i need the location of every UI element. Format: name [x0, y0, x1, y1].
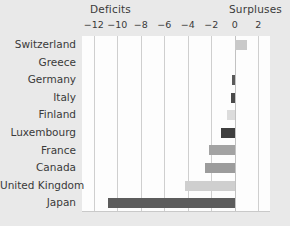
- x-tick-label-0: −12: [84, 19, 104, 30]
- bar-luxembourg: [221, 128, 235, 138]
- x-tick-label-1: −10: [107, 19, 127, 30]
- bar-japan: [108, 198, 235, 208]
- x-tick-label-5: −2: [204, 19, 218, 30]
- bar-italy: [231, 93, 235, 103]
- bar-france: [209, 145, 235, 155]
- chart-row: Canada: [0, 159, 290, 177]
- row-label-germany: Germany: [0, 71, 76, 89]
- chart-row: Finland: [0, 106, 290, 124]
- bar-finland: [227, 110, 235, 120]
- row-label-france: France: [0, 142, 76, 160]
- chart-row: Greece: [0, 54, 290, 72]
- bar-united-kingdom: [185, 181, 234, 191]
- row-label-japan: Japan: [0, 194, 76, 212]
- row-label-luxembourg: Luxembourg: [0, 124, 76, 142]
- chart-row: United Kingdom: [0, 177, 290, 195]
- chart-row: France: [0, 142, 290, 160]
- chart-row: Japan: [0, 194, 290, 212]
- x-tick-label-4: −4: [181, 19, 195, 30]
- x-tick-label-2: −8: [134, 19, 148, 30]
- budget-balance-chart: Deficits Surpluses −12−10−8−6−4−202 Swit…: [0, 0, 290, 226]
- row-label-finland: Finland: [0, 106, 76, 124]
- axis-baseline: [82, 211, 270, 212]
- chart-row: Italy: [0, 89, 290, 107]
- row-label-greece: Greece: [0, 54, 76, 72]
- deficits-header-label: Deficits: [0, 3, 221, 15]
- bar-germany: [232, 75, 235, 85]
- row-label-united-kingdom: United Kingdom: [0, 177, 76, 195]
- x-tick-label-7: 2: [255, 19, 261, 30]
- chart-row: Switzerland: [0, 36, 290, 54]
- row-label-switzerland: Switzerland: [0, 36, 76, 54]
- chart-row: Germany: [0, 71, 290, 89]
- row-label-canada: Canada: [0, 159, 76, 177]
- chart-row: Luxembourg: [0, 124, 290, 142]
- bar-switzerland: [235, 40, 247, 50]
- chart-rows: SwitzerlandGreeceGermanyItalyFinlandLuxe…: [0, 36, 290, 212]
- x-axis-tick-labels: −12−10−8−6−4−202: [0, 19, 290, 33]
- x-tick-label-6: 0: [232, 19, 238, 30]
- bar-canada: [205, 163, 234, 173]
- row-label-italy: Italy: [0, 89, 76, 107]
- surpluses-header-label: Surpluses: [221, 3, 290, 15]
- x-tick-label-3: −6: [157, 19, 171, 30]
